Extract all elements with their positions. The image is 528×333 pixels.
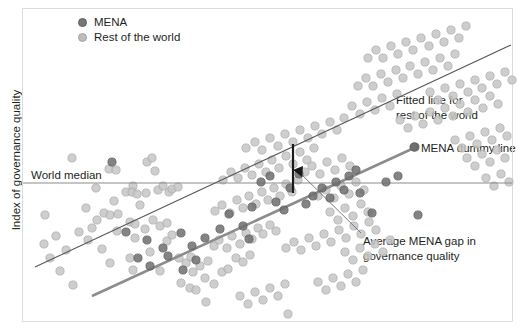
scatter-point xyxy=(141,225,149,233)
scatter-point xyxy=(305,234,313,242)
scatter-point xyxy=(244,300,252,308)
scatter-point xyxy=(478,150,486,158)
scatter-point xyxy=(192,256,200,264)
scatter-point xyxy=(338,154,346,162)
scatter-point xyxy=(201,234,209,242)
scatter-point xyxy=(93,216,101,224)
scatter-point xyxy=(364,54,372,62)
scatter-point xyxy=(365,218,373,226)
scatter-point xyxy=(211,207,219,215)
scatter-point xyxy=(258,188,266,196)
scatter-point xyxy=(248,171,256,179)
scatter-point xyxy=(296,126,304,134)
scatter-point xyxy=(266,134,274,142)
scatter-point xyxy=(280,206,288,214)
scatter-point xyxy=(384,78,392,86)
scatter-point xyxy=(478,84,486,92)
scatter-point xyxy=(308,162,316,170)
scatter-point xyxy=(340,186,348,194)
scatter-point xyxy=(108,158,116,166)
scatter-point xyxy=(314,278,322,286)
scatter-point xyxy=(344,270,352,278)
scatter-point xyxy=(92,184,100,192)
scatter-point xyxy=(281,130,289,138)
scatter-point xyxy=(493,80,501,88)
scatter-point xyxy=(134,254,142,262)
scatter-point xyxy=(449,112,457,120)
scatter-point xyxy=(136,201,144,209)
scatter-point xyxy=(225,210,233,218)
scatter-point xyxy=(425,42,433,50)
scatter-point xyxy=(414,70,422,78)
scatter-point xyxy=(406,62,414,70)
scatter-point xyxy=(316,170,324,178)
scatter-point xyxy=(332,178,340,186)
scatter-point xyxy=(371,240,379,248)
scatter-point xyxy=(354,82,362,90)
scatter-point xyxy=(417,34,425,42)
scatter-point xyxy=(432,30,440,38)
scatter-point xyxy=(149,216,157,224)
plot-area xyxy=(0,0,528,333)
scatter-point xyxy=(411,112,419,120)
scatter-point xyxy=(447,26,455,34)
scatter-point xyxy=(216,225,224,233)
scatter-point xyxy=(258,146,266,154)
scatter-point xyxy=(302,200,310,208)
scatter-point xyxy=(329,274,337,282)
scatter-point xyxy=(40,240,48,248)
scatter-point xyxy=(133,190,141,198)
scatter-point xyxy=(88,224,96,232)
scatter-point xyxy=(368,209,376,217)
scatter-point xyxy=(382,178,390,186)
scatter-point xyxy=(168,231,176,239)
scatter-point xyxy=(349,212,357,220)
scatter-point xyxy=(309,192,317,200)
scatter-point xyxy=(131,234,139,242)
scatter-point xyxy=(322,286,330,294)
scatter-point xyxy=(164,252,172,260)
scatter-point xyxy=(146,248,154,256)
scatter-point xyxy=(275,164,283,172)
scatter-point xyxy=(112,166,120,174)
scatter-point xyxy=(148,154,156,162)
scatter-point xyxy=(464,88,472,96)
scatter-point xyxy=(426,108,434,116)
scatter-point xyxy=(449,92,457,100)
scatter-point xyxy=(142,189,150,197)
scatter-point xyxy=(348,102,356,110)
scatter-point xyxy=(486,158,494,166)
scatter-point xyxy=(312,242,320,250)
scatter-point xyxy=(482,174,490,182)
scatter-point xyxy=(68,154,76,162)
scatter-point xyxy=(471,162,479,170)
scatter-point xyxy=(501,154,509,162)
scatter-point xyxy=(378,94,386,102)
scatter-point xyxy=(341,248,349,256)
scatter-point xyxy=(481,128,489,136)
scatter-point xyxy=(359,266,367,274)
scatter-point xyxy=(245,192,253,200)
scatter-point xyxy=(126,254,134,262)
scatter-point xyxy=(223,244,231,252)
scatter-point xyxy=(356,189,364,197)
scatter-point xyxy=(236,292,244,300)
scatter-point xyxy=(421,58,429,66)
scatter-point xyxy=(248,203,256,211)
scatter-points-mena xyxy=(108,143,422,274)
scatter-point xyxy=(451,50,459,58)
scatter-point xyxy=(264,196,272,204)
scatter-point xyxy=(236,240,244,248)
scatter-point xyxy=(192,286,200,294)
scatter-point xyxy=(204,257,212,265)
scatter-point xyxy=(320,230,328,238)
scatter-point xyxy=(281,280,289,288)
scatter-point xyxy=(156,267,164,275)
scatter-point xyxy=(392,66,400,74)
scatter-point xyxy=(177,279,185,287)
scatter-point xyxy=(357,230,365,238)
scatter-point xyxy=(441,104,449,112)
scatter-point xyxy=(296,148,304,156)
scatter-point xyxy=(189,268,197,276)
scatter-point xyxy=(113,227,121,235)
